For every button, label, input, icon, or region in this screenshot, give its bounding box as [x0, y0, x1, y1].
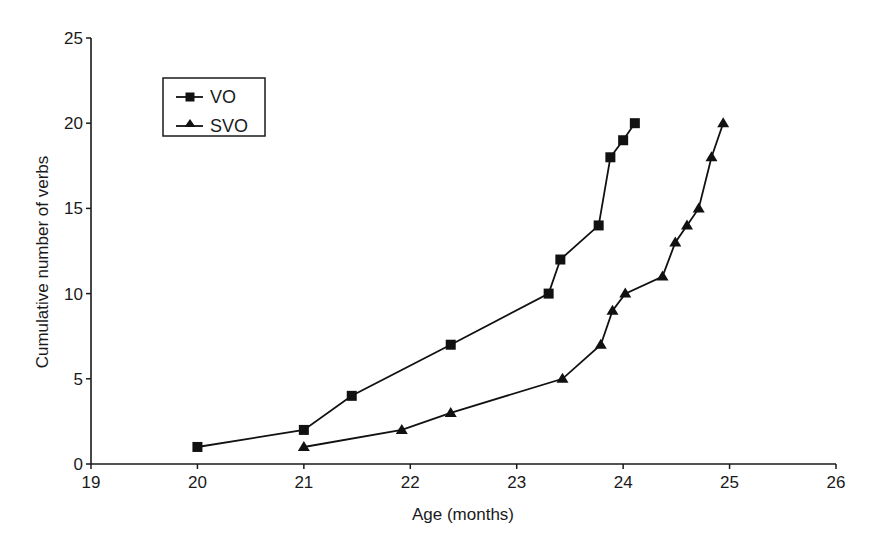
legend-label-svo: SVO: [210, 116, 248, 136]
plot-area: [192, 117, 729, 452]
series-vo: [192, 118, 639, 452]
chart: 0510152025 1920212223242526 Age (months)…: [0, 0, 871, 545]
series-line: [304, 123, 723, 447]
series-svo: [298, 117, 729, 451]
x-tick-label: 20: [188, 473, 207, 492]
series-line: [197, 123, 634, 447]
x-tick-label: 19: [82, 473, 101, 492]
x-tick-label: 22: [401, 473, 420, 492]
square-marker-icon: [630, 118, 640, 128]
square-marker-icon: [555, 255, 565, 265]
x-tick-label: 24: [614, 473, 633, 492]
y-axis-title: Cumulative number of verbs: [33, 156, 52, 369]
y-axis-ticks: 0510152025: [64, 29, 91, 474]
y-tick-label: 20: [64, 114, 83, 133]
triangle-marker-icon: [657, 271, 669, 281]
square-marker-icon: [544, 289, 554, 299]
x-tick-label: 23: [507, 473, 526, 492]
y-tick-label: 15: [64, 199, 83, 218]
square-marker-icon: [299, 425, 309, 435]
triangle-marker-icon: [595, 339, 607, 349]
legend-label-vo: VO: [210, 87, 236, 107]
y-tick-label: 5: [74, 370, 83, 389]
square-marker-icon: [347, 391, 357, 401]
legend: VO SVO: [163, 78, 265, 136]
triangle-marker-icon: [669, 236, 681, 246]
y-tick-label: 10: [64, 285, 83, 304]
square-marker-icon: [618, 135, 628, 145]
triangle-marker-icon: [717, 117, 729, 127]
triangle-marker-icon: [705, 151, 717, 161]
x-tick-label: 21: [294, 473, 313, 492]
y-tick-label: 25: [64, 29, 83, 48]
x-axis-ticks: 1920212223242526: [82, 464, 846, 492]
square-marker-icon: [192, 442, 202, 452]
square-marker-icon: [594, 220, 604, 230]
square-marker-icon: [446, 340, 456, 350]
triangle-marker-icon: [693, 202, 705, 212]
x-tick-label: 26: [827, 473, 846, 492]
square-marker-icon: [186, 93, 195, 102]
y-tick-label: 0: [74, 455, 83, 474]
x-tick-label: 25: [720, 473, 739, 492]
x-axis-title: Age (months): [412, 505, 514, 524]
square-marker-icon: [605, 152, 615, 162]
triangle-marker-icon: [681, 219, 693, 229]
